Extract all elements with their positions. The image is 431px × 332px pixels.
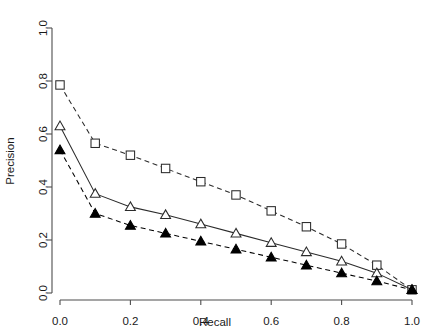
y-axis-tick-label: 0.4 [37,178,49,195]
x-axis-title: Recall [199,316,231,328]
chart-canvas: 0.00.20.40.60.81.0 0.00.20.40.60.81.0 Re… [0,0,431,332]
x-axis-tick-label: 0.0 [52,315,68,327]
y-axis-tick-label: 1.0 [37,20,49,36]
y-axis-title: Precision [4,137,16,184]
marker-open-square [337,240,345,248]
y-axis-tick-label: 0.8 [37,73,49,89]
y-axis-tick-label: 0.0 [37,285,49,301]
marker-open-square [197,178,205,186]
marker-open-square [56,81,64,89]
marker-open-square [302,223,310,231]
y-axis-tick-label: 0.6 [37,126,49,142]
marker-open-square [91,139,99,147]
marker-open-square [232,191,240,199]
x-axis-tick-label: 0.6 [263,315,279,327]
x-axis-tick-label: 1.0 [404,315,420,327]
x-axis-tick-label: 0.8 [334,315,350,327]
precision-recall-chart: 0.00.20.40.60.81.0 0.00.20.40.60.81.0 Re… [0,0,431,332]
x-axis-tick-label: 0.2 [122,315,138,327]
y-axis-tick-label: 0.2 [37,232,49,248]
marker-open-square [126,151,134,159]
marker-open-square [267,207,275,215]
chart-background [0,0,431,332]
marker-open-square [161,164,169,172]
